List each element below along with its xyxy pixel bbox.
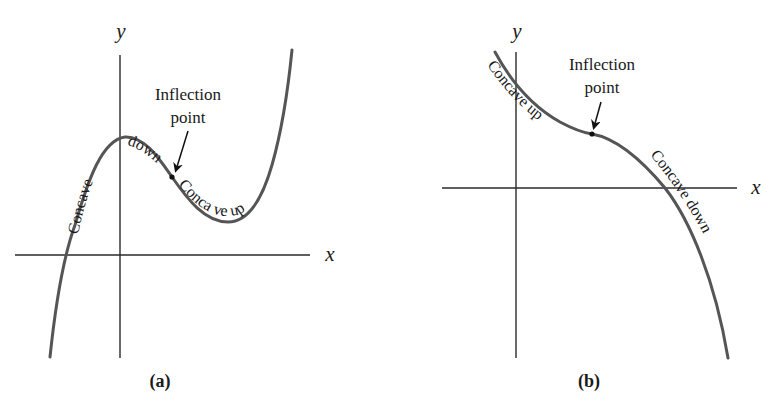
concave-down-label-b: Concave down xyxy=(648,146,716,235)
panel-a: y x Inflection point Concave down Conca … xyxy=(15,19,335,392)
y-axis-label-a: y xyxy=(114,19,126,43)
concave-up-label-a: Conca ve up xyxy=(176,176,248,219)
caption-a: (a) xyxy=(150,371,171,392)
annotation-line1-a: Inflection xyxy=(155,85,222,104)
inflection-point-b xyxy=(589,131,594,136)
caption-b: (b) xyxy=(578,371,600,392)
annotation-line1-b: Inflection xyxy=(569,55,636,74)
arrow-a xyxy=(176,131,188,170)
concavity-diagram: y x Inflection point Concave down Conca … xyxy=(0,0,774,418)
y-axis-label-b: y xyxy=(510,19,522,43)
panel-b: y x Inflection point Concave up Concave … xyxy=(442,19,761,392)
x-axis-label-b: x xyxy=(750,175,761,199)
annotation-line2-b: point xyxy=(585,78,620,97)
annotation-line2-a: point xyxy=(171,108,206,127)
concave-down-label-a1: Concave xyxy=(64,176,96,235)
inflection-point-a xyxy=(169,174,174,179)
arrow-b xyxy=(594,102,601,127)
x-axis-label-a: x xyxy=(324,242,335,266)
